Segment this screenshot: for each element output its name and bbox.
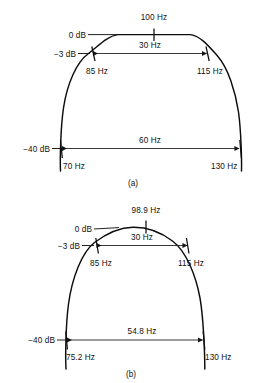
response-curve-b: [66, 227, 205, 369]
response-curve-a: [60, 35, 241, 171]
caption-b: (b): [126, 370, 136, 379]
label-bandwidth-3db-a: 30 Hz: [139, 41, 161, 50]
label-center-freq-b: 98.9 Hz: [132, 206, 161, 215]
figure-b: 0 dB −3 dB −40 dB 98.9 Hz 30 Hz 85 Hz 11…: [0, 192, 263, 383]
label-lower-3db-freq-b: 85 Hz: [90, 259, 112, 268]
caption-a: (a): [128, 179, 138, 188]
label-0db-b: 0 dB: [75, 225, 93, 234]
figure-b-plot: 0 dB −3 dB −40 dB 98.9 Hz 30 Hz 85 Hz 11…: [0, 192, 263, 383]
label-0db-a: 0 dB: [69, 31, 87, 40]
label-center-freq-a: 100 Hz: [141, 13, 168, 22]
label-lower-3db-freq-a: 85 Hz: [86, 67, 108, 76]
leader-0db-b: [94, 228, 119, 229]
label-40db-a: −40 dB: [23, 145, 50, 154]
label-lower-40db-freq-b: 75.2 Hz: [66, 353, 95, 362]
label-upper-40db-freq-b: 130 Hz: [205, 353, 232, 362]
label-3db-b: −3 dB: [58, 242, 81, 251]
label-bandwidth-40db-a: 60 Hz: [139, 136, 161, 145]
label-3db-a: −3 dB: [54, 50, 77, 59]
label-40db-b: −40 dB: [28, 336, 55, 345]
label-upper-3db-freq-a: 115 Hz: [197, 67, 223, 76]
label-bandwidth-40db-b: 54.8 Hz: [128, 327, 157, 336]
tick-130hz-b: [203, 332, 205, 350]
label-upper-40db-freq-a: 130 Hz: [211, 162, 238, 171]
figure-a: 0 dB −3 dB −40 dB 100 Hz 30 Hz 85 Hz 115…: [0, 0, 263, 192]
figure-a-plot: 0 dB −3 dB −40 dB 100 Hz 30 Hz 85 Hz 115…: [0, 0, 263, 192]
label-lower-40db-freq-a: 70 Hz: [63, 162, 85, 171]
label-bandwidth-3db-b: 30 Hz: [131, 233, 153, 242]
label-upper-3db-freq-b: 115 Hz: [178, 259, 204, 268]
